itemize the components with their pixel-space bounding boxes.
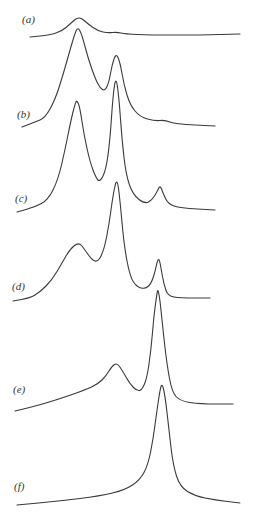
trace-label-a: (a) <box>22 13 35 25</box>
trace-label-d: (d) <box>12 280 25 292</box>
spectrum-trace-a <box>30 18 240 37</box>
spectra-plot <box>0 0 253 520</box>
trace-label-b: (b) <box>17 108 30 120</box>
spectrum-trace-f <box>17 385 240 505</box>
trace-label-c: (c) <box>15 192 27 204</box>
spectrum-trace-b <box>22 29 215 127</box>
trace-label-f: (f) <box>14 480 24 492</box>
spectrum-trace-c <box>17 81 215 212</box>
trace-label-e: (e) <box>13 383 25 395</box>
spectrum-trace-d <box>13 182 210 301</box>
spectrum-trace-e <box>15 290 233 411</box>
